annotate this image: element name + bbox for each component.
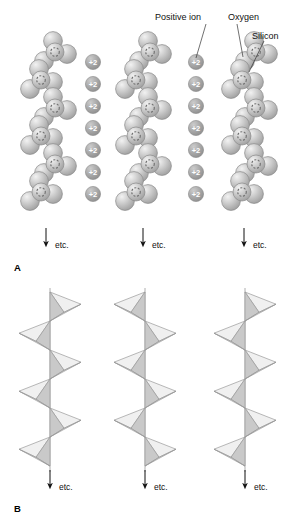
- label-positive-ion: Positive ion: [155, 12, 201, 22]
- panel-letter-a: A: [14, 262, 21, 273]
- positive-ion-charge: +2: [89, 146, 98, 155]
- panel-b-etc-label-3: etc.: [254, 482, 268, 492]
- panel-letter-b: B: [14, 503, 21, 514]
- panel-a-etc-label-3: etc.: [253, 240, 267, 250]
- chain-spacefill-1: [21, 32, 77, 211]
- ion-column-2: +2+2+2+2+2+2+2: [188, 54, 203, 201]
- oxygen-atom: [32, 127, 50, 145]
- positive-ion-charge: +2: [192, 58, 201, 67]
- positive-ion-charge: +2: [192, 190, 201, 199]
- label-silicon: Silicon: [252, 31, 279, 41]
- panel-a-etc-label-1: etc.: [55, 240, 69, 250]
- panel-b-etc-label-2: etc.: [154, 482, 168, 492]
- chain-spacefill-3: [222, 32, 278, 211]
- panel-b-chains: [19, 288, 276, 472]
- oxygen-atom: [233, 183, 251, 201]
- oxygen-atom: [247, 155, 265, 173]
- oxygen-atom: [32, 71, 50, 89]
- oxygen-atom: [141, 43, 159, 61]
- leader-positive-ion: [196, 24, 206, 58]
- oxygen-atom: [127, 183, 145, 201]
- panel-a-chains: [21, 32, 278, 211]
- oxygen-atom: [46, 155, 64, 173]
- panel-b-etc-label-1: etc.: [59, 482, 73, 492]
- oxygen-atom: [141, 155, 159, 173]
- silicate-chain-figure: +2+2+2+2+2+2+2+2+2+2+2+2+2+2 Positive io…: [0, 0, 299, 532]
- figure-canvas: +2+2+2+2+2+2+2+2+2+2+2+2+2+2: [0, 0, 299, 532]
- chain-tetrahedra-3: [214, 288, 276, 472]
- panel-a-etc-label-2: etc.: [152, 240, 166, 250]
- oxygen-atom: [233, 127, 251, 145]
- positive-ion-charge: +2: [89, 80, 98, 89]
- positive-ion-charge: +2: [192, 168, 201, 177]
- positive-ion-charge: +2: [89, 124, 98, 133]
- oxygen-atom: [127, 71, 145, 89]
- positive-ion-charge: +2: [89, 58, 98, 67]
- chain-spacefill-2: [116, 32, 172, 211]
- positive-ion-charge: +2: [192, 124, 201, 133]
- positive-ion-charge: +2: [192, 80, 201, 89]
- ion-column-1: +2+2+2+2+2+2+2: [85, 54, 100, 201]
- chain-tetrahedra-2: [114, 288, 176, 472]
- leader-oxygen: [237, 24, 243, 57]
- oxygen-atom: [46, 99, 64, 117]
- panel-a-etc-arrows: [46, 228, 244, 244]
- oxygen-atom: [127, 127, 145, 145]
- panel-b-etc-arrows: [50, 470, 245, 486]
- oxygen-atom: [233, 71, 251, 89]
- positive-ion-charge: +2: [192, 102, 201, 111]
- oxygen-atom: [141, 99, 159, 117]
- positive-ion-charge: +2: [89, 102, 98, 111]
- oxygen-atom: [46, 43, 64, 61]
- positive-ion-charge: +2: [89, 168, 98, 177]
- oxygen-atom: [32, 183, 50, 201]
- label-oxygen: Oxygen: [228, 12, 259, 22]
- chain-tetrahedra-1: [19, 288, 81, 472]
- positive-ion-charge: +2: [192, 146, 201, 155]
- oxygen-atom: [247, 99, 265, 117]
- positive-ion-charge: +2: [89, 190, 98, 199]
